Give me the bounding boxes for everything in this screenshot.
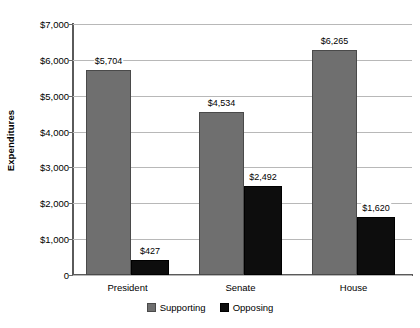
legend-label: Opposing	[233, 302, 274, 313]
bar-senate-supporting	[199, 112, 244, 275]
y-axis-title-text: Expenditures	[6, 109, 17, 170]
legend-label: Supporting	[160, 302, 206, 313]
bar-house-supporting	[312, 50, 357, 275]
y-axis-tickmark	[68, 132, 73, 133]
chart-canvas: Expenditures $7,000$6,000$5,000$4,000$3,…	[0, 0, 420, 328]
y-axis-tick-label: $5,000	[17, 90, 69, 101]
y-axis-tick-label: $3,000	[17, 162, 69, 173]
bar-value-label: $427	[139, 246, 161, 257]
y-axis-tickmark	[68, 60, 73, 61]
bar-value-label: $2,492	[248, 172, 278, 183]
y-axis-tick-label: $2,000	[17, 198, 69, 209]
bar-value-label: $1,620	[361, 203, 391, 214]
y-axis-tickmark	[68, 167, 73, 168]
legend-item-supporting[interactable]: Supporting	[147, 302, 206, 313]
y-axis-tickmark	[68, 203, 73, 204]
y-axis-tickmark	[68, 275, 73, 276]
category-label-senate: Senate	[225, 282, 255, 293]
bar-senate-opposing	[244, 186, 282, 275]
bar-president-supporting	[86, 70, 131, 275]
bar-value-label: $6,265	[320, 36, 350, 47]
y-axis-tick-label: $7,000	[17, 19, 69, 30]
gridline	[73, 275, 412, 276]
legend-swatch-icon	[220, 303, 229, 312]
legend: SupportingOpposing	[0, 302, 420, 313]
legend-swatch-icon	[147, 303, 156, 312]
category-label-house: House	[340, 282, 367, 293]
y-axis-tick-labels: $7,000$6,000$5,000$4,000$3,000$2,000$1,0…	[16, 0, 69, 328]
y-axis-tickmark	[68, 239, 73, 240]
y-axis-line	[72, 23, 74, 276]
bar-value-label: $4,534	[207, 98, 237, 109]
y-axis-tickmark	[68, 96, 73, 97]
category-label-president: President	[107, 282, 147, 293]
y-axis-tick-label: $6,000	[17, 54, 69, 65]
gridline	[73, 60, 412, 61]
y-axis-tickmark	[68, 24, 73, 25]
bar-value-label: $5,704	[94, 56, 124, 67]
gridline	[73, 24, 412, 25]
y-axis-tick-label: 0	[17, 270, 69, 281]
bar-house-opposing	[357, 217, 395, 275]
bar-president-opposing	[131, 260, 169, 275]
y-axis-tick-label: $4,000	[17, 126, 69, 137]
y-axis-tick-label: $1,000	[17, 234, 69, 245]
plot-area: $5,704$427$4,534$2,492$6,265$1,620	[73, 24, 412, 275]
legend-item-opposing[interactable]: Opposing	[220, 302, 274, 313]
